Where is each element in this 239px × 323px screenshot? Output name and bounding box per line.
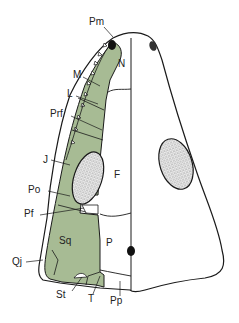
- label-premaxilla: Pm: [89, 17, 104, 27]
- label-lacrimal: L: [67, 89, 73, 99]
- label-postfrontal: Pf: [24, 209, 33, 219]
- pineal-foramen: [127, 246, 135, 256]
- label-quadratojugal: Qj: [12, 257, 22, 267]
- label-prefrontal: Prf: [50, 109, 63, 119]
- label-supratemporal: St: [56, 290, 65, 300]
- label-frontal: F: [114, 170, 120, 180]
- label-tabular: T: [88, 294, 94, 304]
- label-jugal: J: [43, 155, 48, 165]
- label-postparietal: Pp: [110, 296, 122, 306]
- label-squamosal: Sq: [59, 236, 71, 246]
- label-maxilla: M: [73, 70, 81, 80]
- label-postorbital: Po: [28, 185, 40, 195]
- left-nostril: [108, 40, 116, 50]
- label-parietal: P: [106, 238, 113, 248]
- label-nasal: N: [118, 59, 125, 69]
- skull-diagram: [0, 0, 239, 323]
